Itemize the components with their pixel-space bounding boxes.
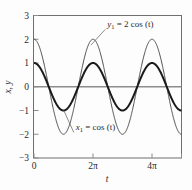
series-label-y1-rest: = 2 cos (t) bbox=[114, 19, 153, 29]
x-tick-label: 0 bbox=[32, 161, 37, 171]
y-tick-label: −2 bbox=[19, 130, 29, 140]
cosine-plot: 3210−1−2−3 02π4π x, y t y1 = 2 cos (t) x… bbox=[0, 0, 192, 190]
y-tick-label: 2 bbox=[24, 35, 29, 45]
y-tick-label: 1 bbox=[24, 58, 29, 68]
y-tick-label: 3 bbox=[24, 11, 29, 21]
y-tick-label: −3 bbox=[19, 153, 29, 163]
y-axis-title: x, y bbox=[3, 80, 13, 95]
x-tick-label: 2π bbox=[88, 161, 98, 171]
chart-figure: 3210−1−2−3 02π4π x, y t y1 = 2 cos (t) x… bbox=[0, 0, 192, 190]
x-tick-label: 4π bbox=[147, 161, 157, 171]
y-tick-label: −1 bbox=[19, 106, 29, 116]
y-tick-label: 0 bbox=[24, 82, 29, 92]
series-label-x1-rest: = cos (t) bbox=[83, 122, 115, 132]
x-axis-title: t bbox=[106, 174, 109, 184]
